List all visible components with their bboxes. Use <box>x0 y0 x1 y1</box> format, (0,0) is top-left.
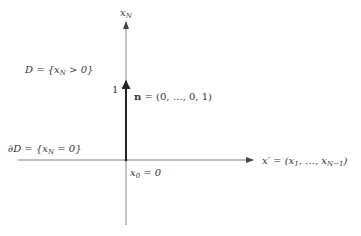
boundary-label: ∂D = {xN = 0} <box>8 143 82 156</box>
region-label: D = {xN > 0} <box>24 64 93 77</box>
origin-point <box>125 159 128 162</box>
unit-tick-label: 1 <box>112 84 118 95</box>
horizontal-axis-label: x′ = (x1, …, xN−1) <box>262 155 347 168</box>
normal-vector-label: n = (0, …, 0, 1) <box>134 91 212 102</box>
origin-label: x0 = 0 <box>130 167 162 180</box>
vertical-axis-label: xN <box>120 7 133 20</box>
half-space-diagram: xN D = {xN > 0} 1 n = (0, …, 0, 1) ∂D = … <box>0 0 361 236</box>
